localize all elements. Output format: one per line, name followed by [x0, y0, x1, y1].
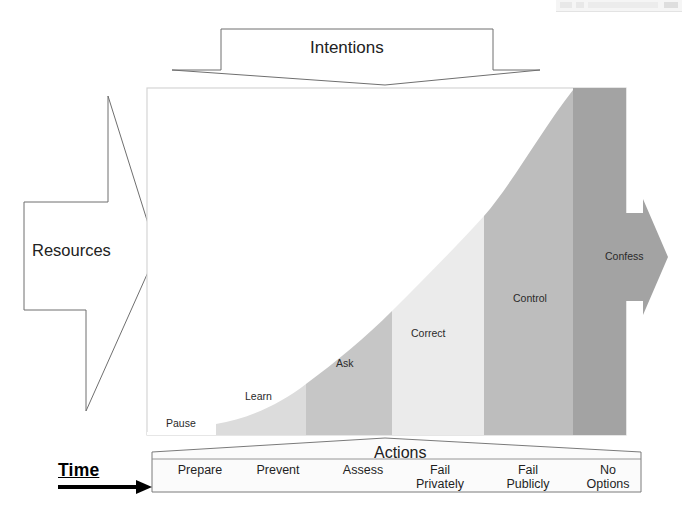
- band-label-control: Control: [513, 292, 547, 304]
- diagram-graphics: [0, 0, 682, 522]
- band-label-confess: Confess: [605, 250, 644, 262]
- resources-label: Resources: [32, 241, 111, 260]
- band-label-learn: Learn: [245, 390, 272, 402]
- time-label: Time: [58, 461, 99, 481]
- axis-label-prevent: Prevent: [240, 463, 316, 477]
- axis-label-prepare: Prepare: [165, 463, 235, 477]
- band-label-correct: Correct: [411, 327, 445, 339]
- diagram-canvas: Intentions Resources Actions Time Pause …: [0, 0, 682, 522]
- intentions-label: Intentions: [310, 38, 384, 57]
- actions-label: Actions: [374, 444, 426, 462]
- band-label-pause: Pause: [166, 417, 196, 429]
- axis-label-no-options: No Options: [572, 463, 644, 491]
- time-arrow: [58, 480, 152, 494]
- band-label-ask: Ask: [336, 357, 354, 369]
- axis-label-fail-publicly: Fail Publicly: [492, 463, 564, 491]
- axis-label-fail-privately: Fail Privately: [404, 463, 476, 491]
- axis-label-assess: Assess: [328, 463, 398, 477]
